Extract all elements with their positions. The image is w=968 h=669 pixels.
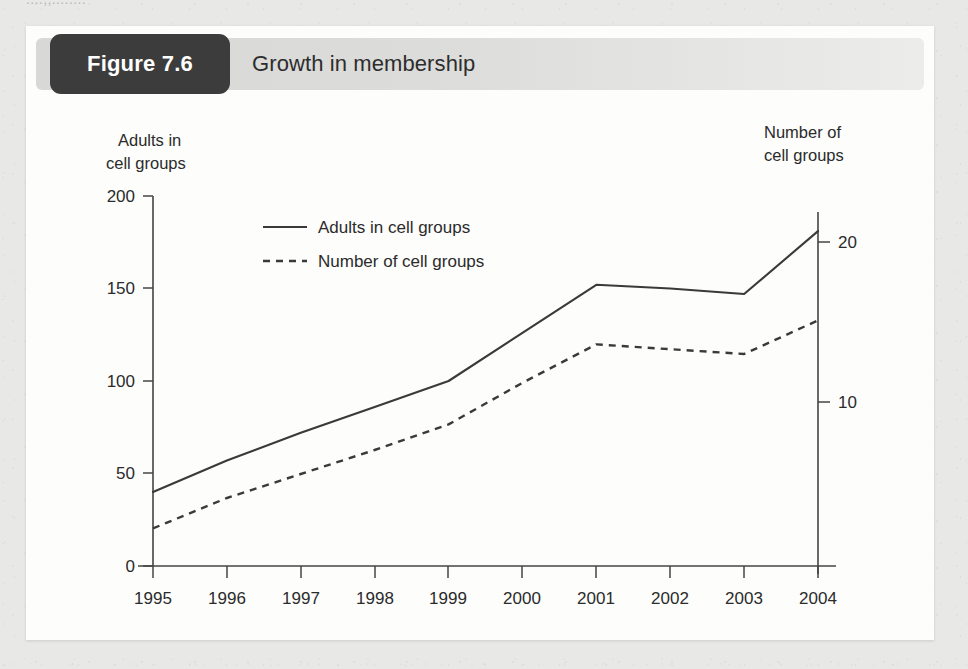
x-tick-label-2004: 2004 (799, 589, 837, 608)
x-tick-label-1999: 1999 (429, 589, 467, 608)
right-y-tick-labels: 20 10 (838, 233, 857, 412)
left-tick-label-150: 150 (107, 279, 135, 298)
x-axis-ticks (153, 566, 818, 578)
left-y-tick-labels: 200 150 100 50 0 (107, 187, 135, 576)
right-tick-label-10: 10 (838, 393, 857, 412)
page-top-strip: ....,,........ (0, 0, 968, 14)
x-tick-label-1995: 1995 (134, 589, 172, 608)
series-line-number-of-cell-groups (153, 320, 818, 528)
top-ghost-text: ....,,........ (26, 0, 86, 7)
chart-area: Adults in cell groups Number of cell gro… (26, 26, 934, 640)
x-tick-label-2000: 2000 (503, 589, 541, 608)
legend-label-adults: Adults in cell groups (318, 218, 470, 237)
right-axis-caption-line1: Number of (764, 123, 841, 141)
line-chart-svg: Adults in cell groups Number of cell gro… (26, 26, 934, 640)
x-tick-label-1997: 1997 (282, 589, 320, 608)
x-tick-label-1996: 1996 (208, 589, 246, 608)
left-y-ticks (143, 196, 153, 566)
left-axis-caption-line1: Adults in (118, 131, 181, 149)
legend-label-cell-groups: Number of cell groups (318, 252, 484, 271)
series-line-adults-in-cell-groups (153, 231, 818, 492)
left-tick-label-200: 200 (107, 187, 135, 206)
right-tick-label-20: 20 (838, 233, 857, 252)
x-tick-label-2003: 2003 (725, 589, 763, 608)
left-tick-label-0: 0 (126, 557, 135, 576)
left-axis-caption-line2: cell groups (106, 154, 186, 172)
x-tick-label-2001: 2001 (577, 589, 615, 608)
x-tick-label-1998: 1998 (356, 589, 394, 608)
right-y-ticks (818, 242, 830, 402)
left-tick-label-100: 100 (107, 372, 135, 391)
x-axis-tick-labels: 1995 1996 1997 1998 1999 2000 2001 2002 … (134, 589, 837, 608)
left-tick-label-50: 50 (116, 464, 135, 483)
right-axis-caption-line2: cell groups (764, 146, 844, 164)
x-tick-label-2002: 2002 (651, 589, 689, 608)
chart-legend: Adults in cell groups Number of cell gro… (263, 218, 484, 271)
figure-card: Figure 7.6 Growth in membership Adults i… (26, 26, 934, 640)
